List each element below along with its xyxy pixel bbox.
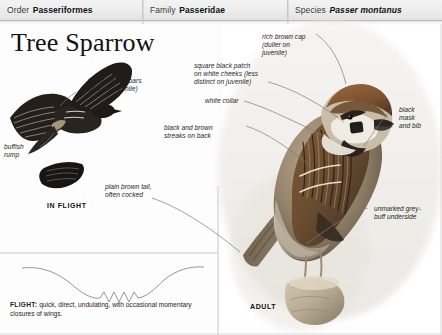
label-rump: buffish rump (4, 143, 24, 159)
header-shadow (0, 21, 442, 24)
taxonomy-family: Family Passeridae (143, 0, 288, 20)
taxonomy-species-value: Passer montanus (329, 5, 401, 15)
flight-description-heading: FLIGHT: (10, 301, 37, 308)
field-guide-page: Order Passeriformes Family Passeridae Sp… (0, 0, 442, 335)
label-wingbars: two pale wingbars (buff on juvenile) (88, 77, 142, 93)
taxonomy-species: Species Passer montanus (288, 0, 442, 20)
flight-description-text: quick, direct, undulating, with occasion… (10, 301, 192, 317)
label-tail: plain brown tail, often cocked (105, 183, 152, 199)
label-cap: rich brown cap (duller on juvenile) (262, 33, 306, 58)
flight-description: FLIGHT: quick, direct, undulating, with … (10, 300, 215, 318)
caption-in-flight: IN FLIGHT (47, 202, 87, 209)
page-title: Tree Sparrow (11, 28, 155, 58)
taxonomy-order: Order Passeriformes (0, 0, 143, 20)
label-mask-and-bib: black mask and bib (399, 106, 421, 131)
label-cheek-patch: square black patch on white cheeks (less… (194, 62, 258, 87)
caption-adult: ADULT (250, 303, 276, 310)
taxonomy-header: Order Passeriformes Family Passeridae Sp… (0, 0, 442, 21)
taxonomy-order-value: Passeriformes (33, 5, 93, 15)
flight-path-diagram (22, 267, 204, 302)
taxonomy-order-key: Order (7, 5, 29, 15)
flight-bird-wing-detail (39, 162, 84, 188)
label-back-streaks: black and brown streaks on back (164, 124, 213, 140)
label-underside: unmarked grey- buff underside (374, 205, 421, 221)
label-white-collar: white collar (205, 97, 239, 105)
taxonomy-family-value: Passeridae (179, 5, 225, 15)
taxonomy-family-key: Family (150, 5, 176, 15)
taxonomy-species-key: Species (295, 5, 326, 15)
